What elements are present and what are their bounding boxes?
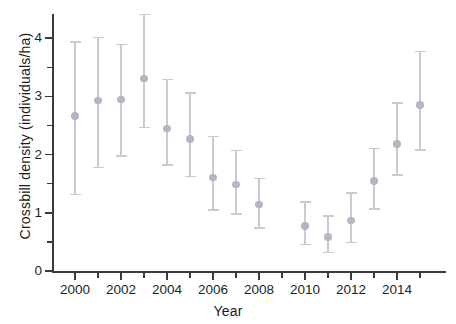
- data-point: [140, 75, 148, 83]
- y-axis-minor-tick: [47, 241, 52, 243]
- x-axis-minor-tick: [419, 273, 421, 278]
- data-point: [347, 217, 355, 225]
- error-bar-cap-upper: [231, 150, 242, 151]
- x-axis-minor-tick: [189, 273, 191, 278]
- data-point: [255, 201, 263, 209]
- x-axis-line: [52, 271, 446, 273]
- x-axis-minor-tick: [327, 273, 329, 278]
- error-bar: [419, 51, 420, 149]
- y-axis-minor-tick: [47, 125, 52, 127]
- data-point: [232, 181, 240, 189]
- x-axis-tick: [212, 273, 214, 280]
- x-axis-tick: [304, 273, 306, 280]
- y-axis-tick: [45, 37, 52, 39]
- data-point: [416, 101, 424, 109]
- error-bar-cap-upper: [392, 102, 403, 103]
- y-axis-minor-tick: [47, 67, 52, 69]
- error-bar-cap-lower: [254, 227, 265, 228]
- error-bar: [166, 79, 167, 165]
- error-bar-cap-upper: [116, 44, 127, 45]
- error-bar-cap-upper: [415, 51, 426, 52]
- data-point: [393, 140, 401, 148]
- data-point: [324, 233, 332, 241]
- error-bar-cap-lower: [70, 194, 81, 195]
- x-axis-minor-tick: [281, 273, 283, 278]
- x-axis-tick: [258, 273, 260, 280]
- error-bar-cap-lower: [323, 252, 334, 253]
- y-axis-tick: [45, 154, 52, 156]
- x-axis-tick-label: 2002: [99, 283, 143, 297]
- error-bar-cap-upper: [139, 14, 150, 15]
- error-bar-cap-lower: [162, 164, 173, 165]
- data-point: [71, 112, 79, 120]
- data-point: [94, 97, 102, 105]
- plot-area: [53, 14, 445, 272]
- x-axis-tick-label: 2004: [145, 283, 189, 297]
- error-bar-cap-lower: [139, 127, 150, 128]
- x-axis-tick-label: 2012: [329, 283, 373, 297]
- x-axis-minor-tick: [97, 273, 99, 278]
- x-axis-minor-tick: [235, 273, 237, 278]
- error-bar-cap-upper: [346, 192, 357, 193]
- x-axis-title: Year: [0, 303, 456, 319]
- error-bar-cap-lower: [93, 167, 104, 168]
- x-axis-tick: [396, 273, 398, 280]
- x-axis-minor-tick: [373, 273, 375, 278]
- error-bar-cap-lower: [208, 209, 219, 210]
- error-bar-cap-lower: [346, 242, 357, 243]
- crossbill-density-chart: 01234 20002002200420062008201020122014 Y…: [0, 0, 456, 324]
- x-axis-tick-label: 2010: [283, 283, 327, 297]
- y-axis-line: [52, 14, 54, 273]
- error-bar: [189, 92, 190, 175]
- x-axis-minor-tick: [143, 273, 145, 278]
- x-axis-tick: [74, 273, 76, 280]
- error-bar-cap-upper: [93, 37, 104, 38]
- data-point: [163, 125, 171, 133]
- error-bar: [212, 136, 213, 209]
- x-axis-tick-label: 2006: [191, 283, 235, 297]
- data-point: [117, 96, 125, 104]
- error-bar-cap-upper: [70, 41, 81, 42]
- error-bar-cap-upper: [208, 136, 219, 137]
- x-axis-tick: [166, 273, 168, 280]
- y-axis-tick: [45, 96, 52, 98]
- data-point: [301, 222, 309, 230]
- error-bar-cap-upper: [185, 92, 196, 93]
- error-bar-cap-lower: [116, 155, 127, 156]
- error-bar: [143, 14, 144, 127]
- x-axis-tick-label: 2008: [237, 283, 281, 297]
- y-axis-tick: [45, 212, 52, 214]
- y-axis-minor-tick: [47, 183, 52, 185]
- error-bar-cap-upper: [162, 79, 173, 80]
- x-axis-tick: [350, 273, 352, 280]
- x-axis-tick-label: 2014: [375, 283, 419, 297]
- error-bar-cap-upper: [369, 148, 380, 149]
- error-bar-cap-lower: [369, 208, 380, 209]
- error-bar-cap-lower: [415, 149, 426, 150]
- error-bar-cap-lower: [185, 176, 196, 177]
- x-axis-tick: [120, 273, 122, 280]
- error-bar-cap-upper: [254, 178, 265, 179]
- error-bar-cap-lower: [300, 244, 311, 245]
- data-point: [370, 177, 378, 185]
- error-bar: [396, 102, 397, 174]
- data-point: [186, 135, 194, 143]
- error-bar-cap-upper: [300, 201, 311, 202]
- y-axis-tick: [45, 270, 52, 272]
- y-axis-title: Crossbill density (individuals/ha): [17, 0, 33, 276]
- error-bar-cap-lower: [231, 213, 242, 214]
- error-bar-cap-upper: [323, 215, 334, 216]
- error-bar-cap-lower: [392, 174, 403, 175]
- x-axis-tick-label: 2000: [53, 283, 97, 297]
- data-point: [209, 174, 217, 182]
